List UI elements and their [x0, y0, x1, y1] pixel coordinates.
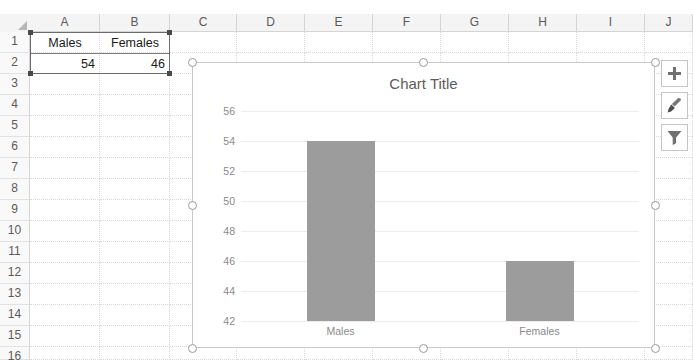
chart-filters-button[interactable] [661, 124, 688, 151]
chart-plot-area[interactable]: 4244464850525456 MalesFemales [241, 111, 639, 321]
cell-I1[interactable] [577, 32, 645, 53]
cell-value-A1[interactable]: Males [31, 33, 99, 52]
cell-B11[interactable] [100, 242, 170, 263]
funnel-icon [665, 128, 684, 147]
cell-H1[interactable] [509, 32, 577, 53]
cell-A7[interactable] [30, 158, 100, 179]
column-header-f[interactable]: F [373, 14, 441, 32]
cell-value-A2[interactable]: 54 [31, 54, 99, 73]
cell-B12[interactable] [100, 263, 170, 284]
cell-B14[interactable] [100, 305, 170, 326]
cell-value-B1[interactable]: Females [101, 33, 169, 52]
row-header-7[interactable]: 7 [0, 158, 30, 179]
row-header-14[interactable]: 14 [0, 305, 30, 326]
cell-E16[interactable] [305, 347, 373, 360]
gridline-56 [241, 111, 639, 112]
chart-resize-handle-middle-left[interactable] [188, 201, 197, 210]
column-header-h[interactable]: H [509, 14, 577, 32]
cell-B13[interactable] [100, 284, 170, 305]
row-header-6[interactable]: 6 [0, 137, 30, 158]
chart-resize-handle-top-left[interactable] [188, 58, 197, 67]
cell-D16[interactable] [237, 347, 305, 360]
column-header-j[interactable]: J [645, 14, 693, 32]
cell-B10[interactable] [100, 221, 170, 242]
chart-resize-handle-top-right[interactable] [651, 58, 660, 67]
row-header-5[interactable]: 5 [0, 116, 30, 137]
row-header-2[interactable]: 2 [0, 53, 30, 74]
column-header-b[interactable]: B [100, 14, 170, 32]
cell-A16[interactable] [30, 347, 100, 360]
cell-H16[interactable] [509, 347, 577, 360]
cell-A15[interactable] [30, 326, 100, 347]
cell-A3[interactable] [30, 74, 100, 95]
cell-G16[interactable] [441, 347, 509, 360]
cell-F16[interactable] [373, 347, 441, 360]
cell-A4[interactable] [30, 95, 100, 116]
cell-D1[interactable] [237, 32, 305, 53]
select-all-corner[interactable] [0, 14, 31, 33]
column-header-c[interactable]: C [170, 14, 237, 32]
row-header-3[interactable]: 3 [0, 74, 30, 95]
chart-elements-button[interactable] [661, 60, 688, 87]
bar-females[interactable] [506, 261, 574, 321]
row-header-1[interactable]: 1 [0, 32, 30, 53]
chart-styles-button[interactable] [661, 92, 688, 119]
row-header-8[interactable]: 8 [0, 179, 30, 200]
bar-males[interactable] [307, 141, 375, 321]
chart-resize-handle-middle-right[interactable] [651, 201, 660, 210]
cell-B7[interactable] [100, 158, 170, 179]
x-category-label-males: Males [326, 325, 354, 337]
cell-B4[interactable] [100, 95, 170, 116]
cell-A6[interactable] [30, 137, 100, 158]
column-header-i[interactable]: I [577, 14, 645, 32]
cell-C1[interactable] [170, 32, 237, 53]
chart-resize-handle-bottom-right[interactable] [651, 344, 660, 353]
cell-C16[interactable] [170, 347, 237, 360]
row-header-10[interactable]: 10 [0, 221, 30, 242]
column-header-a[interactable]: A [30, 14, 100, 32]
gridline-48 [241, 231, 639, 232]
cell-A11[interactable] [30, 242, 100, 263]
cell-F1[interactable] [373, 32, 441, 53]
column-header-d[interactable]: D [237, 14, 305, 32]
cell-A10[interactable] [30, 221, 100, 242]
x-category-label-females: Females [519, 325, 559, 337]
cell-B6[interactable] [100, 137, 170, 158]
cell-A14[interactable] [30, 305, 100, 326]
chart-object[interactable]: Chart Title 4244464850525456 MalesFemale… [192, 62, 655, 348]
cell-J1[interactable] [645, 32, 693, 53]
cell-B16[interactable] [100, 347, 170, 360]
gridline-50 [241, 201, 639, 202]
cell-B3[interactable] [100, 74, 170, 95]
row-header-11[interactable]: 11 [0, 242, 30, 263]
cell-value-B2[interactable]: 46 [101, 54, 169, 73]
cell-A12[interactable] [30, 263, 100, 284]
cell-E1[interactable] [305, 32, 373, 53]
column-header-e[interactable]: E [305, 14, 373, 32]
cell-G1[interactable] [441, 32, 509, 53]
row-header-15[interactable]: 15 [0, 326, 30, 347]
chart-resize-handle-bottom-left[interactable] [188, 344, 197, 353]
cell-B15[interactable] [100, 326, 170, 347]
row-header-16[interactable]: 16 [0, 347, 30, 360]
y-tick-label-42: 42 [223, 315, 235, 327]
select-all-triangle-icon [18, 21, 27, 30]
chart-title[interactable]: Chart Title [193, 75, 654, 92]
cell-B9[interactable] [100, 200, 170, 221]
cell-B5[interactable] [100, 116, 170, 137]
column-header-g[interactable]: G [441, 14, 509, 32]
row-header-9[interactable]: 9 [0, 200, 30, 221]
cell-A9[interactable] [30, 200, 100, 221]
chart-side-buttons[interactable] [661, 60, 691, 156]
cell-A8[interactable] [30, 179, 100, 200]
cell-I16[interactable] [577, 347, 645, 360]
y-tick-label-46: 46 [223, 255, 235, 267]
row-header-12[interactable]: 12 [0, 263, 30, 284]
chart-resize-handle-bottom-center[interactable] [419, 344, 428, 353]
cell-A5[interactable] [30, 116, 100, 137]
cell-A13[interactable] [30, 284, 100, 305]
row-header-13[interactable]: 13 [0, 284, 30, 305]
row-header-4[interactable]: 4 [0, 95, 30, 116]
chart-resize-handle-top-center[interactable] [419, 58, 428, 67]
cell-B8[interactable] [100, 179, 170, 200]
